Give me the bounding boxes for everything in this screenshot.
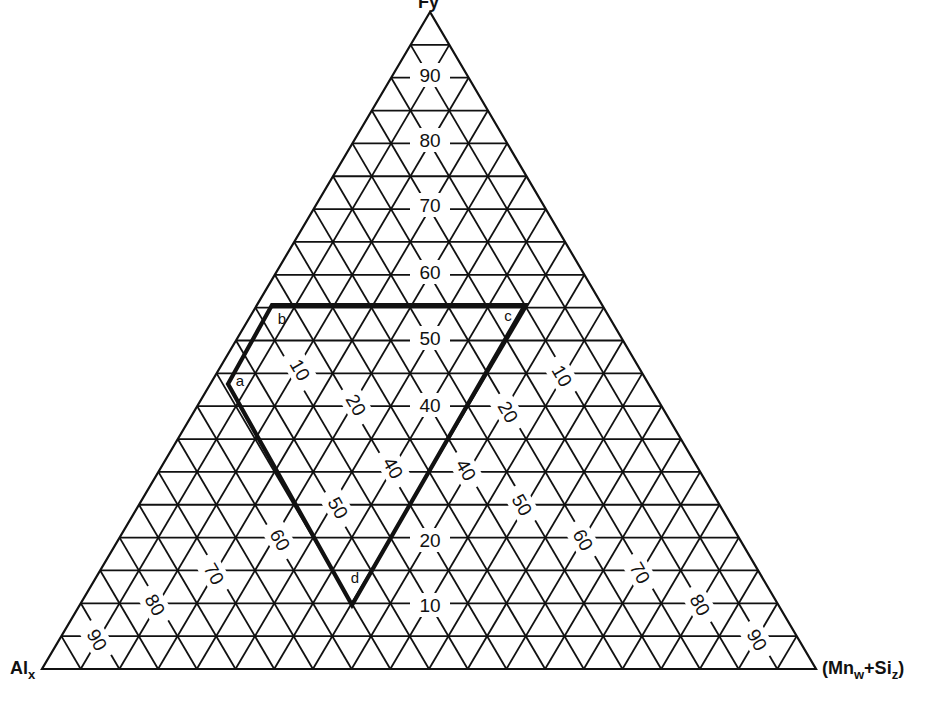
grid-line — [545, 439, 681, 669]
vertex-right-close: ) — [898, 658, 904, 678]
grid-line — [236, 176, 527, 669]
center-tick-label: 60 — [419, 262, 440, 283]
vertex-label-left: Alx — [10, 658, 35, 682]
vertex-label-top: Fy — [418, 0, 439, 13]
point-label-a: a — [236, 372, 245, 389]
vertex-top-sub: y — [429, 0, 439, 12]
grid-line — [468, 373, 643, 669]
center-tick-label: 90 — [419, 65, 440, 86]
center-tick-label: 20 — [419, 530, 440, 551]
grid-line — [777, 636, 796, 669]
center-tick-label: 80 — [419, 130, 440, 151]
tick-labels: 9080706050402010102040506070809010204050… — [83, 65, 772, 655]
center-tick-label: 40 — [419, 395, 440, 416]
grid-line — [411, 45, 778, 669]
ternary-diagram: 9080706050402010102040506070809010204050… — [0, 0, 935, 701]
vertex-right-mn: (Mn — [822, 658, 854, 678]
grid-line — [61, 636, 80, 669]
point-label-b: b — [278, 310, 286, 327]
vertex-right-sub-w: w — [854, 667, 864, 682]
label-backgrounds — [77, 63, 778, 663]
point-label-d: d — [351, 569, 359, 586]
vertex-left-main: Al — [10, 658, 28, 678]
vertex-top-main: F — [418, 0, 429, 12]
center-tick-label: 70 — [419, 195, 440, 216]
grid-line — [333, 176, 623, 669]
vertex-left-sub: x — [28, 667, 35, 682]
center-tick-label: 10 — [419, 595, 440, 616]
point-label-c: c — [504, 307, 512, 324]
center-tick-label: 50 — [419, 328, 440, 349]
grid-line — [81, 45, 450, 669]
vertex-right-si: +Si — [864, 658, 892, 678]
vertex-label-right: (Mnw+Siz) — [822, 658, 904, 682]
